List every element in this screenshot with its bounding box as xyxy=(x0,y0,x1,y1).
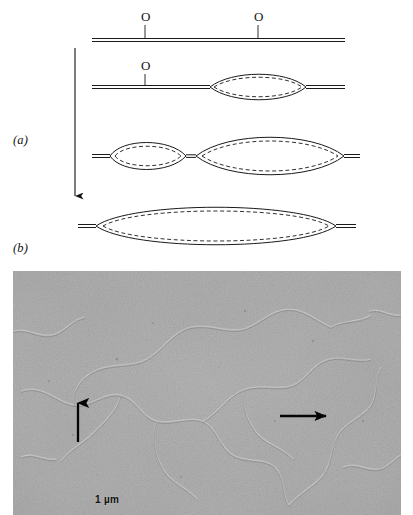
right-bubble-parental-top xyxy=(196,137,344,156)
origin-label-stage2-left: O xyxy=(141,58,150,74)
bubble-parental-top xyxy=(210,74,306,87)
schematic-svg xyxy=(0,0,413,262)
micrograph-svg xyxy=(13,271,401,515)
panel-b-micrograph: 1 µm xyxy=(13,271,401,515)
left-bubble-daughter-top xyxy=(115,146,181,156)
scale-bar-label: 1 µm xyxy=(95,494,119,505)
origin-label-stage1-right: O xyxy=(254,9,263,25)
stage-3-two-bubbles xyxy=(92,137,360,175)
stage-2-single-bubble xyxy=(92,74,345,100)
stage-4-merged-bubble xyxy=(78,207,356,245)
origin-label-stage1-left: O xyxy=(141,9,150,25)
merged-bubble-parental-bottom xyxy=(96,226,336,245)
right-bubble-parental-bottom xyxy=(196,156,344,175)
left-bubble-parental-top xyxy=(110,143,186,157)
panel-label-a: (a) xyxy=(13,133,28,148)
panel-label-b: (b) xyxy=(13,241,28,256)
figure-root: O O O (a) (b) xyxy=(0,0,413,515)
stage-1-unreplicated-duplex xyxy=(92,25,345,42)
left-bubble-parental-bottom xyxy=(110,156,186,170)
panel-a-schematic: O O O (a) xyxy=(0,0,413,262)
merged-bubble-parental-top xyxy=(96,207,336,226)
left-bubble-daughter-bottom xyxy=(115,156,181,166)
bubble-parental-bottom xyxy=(210,87,306,100)
